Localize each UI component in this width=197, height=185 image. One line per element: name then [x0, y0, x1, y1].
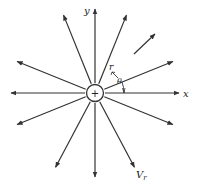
velocity-ray-4: [104, 97, 173, 125]
x-axis-label: x: [183, 88, 189, 99]
velocity-ray-1: [99, 15, 127, 84]
velocity-ray-8: [17, 97, 86, 125]
radius-label: r: [109, 62, 114, 72]
flow-direction-arrow: [134, 34, 155, 54]
source-plus-sign: +: [91, 88, 99, 99]
theta-label: θ: [117, 77, 122, 86]
y-axis-label: y: [83, 5, 90, 16]
velocity-ray-2: [104, 62, 173, 90]
velocity-ray-11: [64, 15, 92, 84]
velocity-label: Vr: [136, 169, 147, 182]
velocity-ray-10: [17, 62, 86, 90]
source-flow-diagram: + y x r θ Vr: [0, 0, 197, 185]
velocity-ray-5: [100, 102, 135, 167]
velocity-ray-7: [56, 102, 91, 167]
